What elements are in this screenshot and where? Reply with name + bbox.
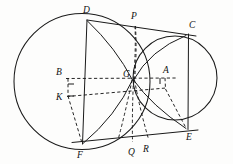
label-P: P xyxy=(130,11,137,21)
segment-AE xyxy=(166,89,187,128)
label-R: R xyxy=(142,144,149,154)
label-D: D xyxy=(82,5,90,15)
chord-DF xyxy=(83,20,88,144)
label-K: K xyxy=(55,92,63,102)
large-circle xyxy=(14,14,150,150)
label-Q: Q xyxy=(128,147,135,157)
segment-GQ xyxy=(132,80,133,142)
segment-GC xyxy=(134,36,187,81)
tangent-line-DC xyxy=(87,20,196,36)
figure-canvas: D P C B G A K E F Q R xyxy=(0,0,233,164)
chord-CE xyxy=(188,34,189,130)
segment-G-lower-left xyxy=(118,80,132,140)
label-F: F xyxy=(76,150,83,160)
label-G: G xyxy=(123,69,130,79)
geometric-figure-container: D P C B G A K E F Q R xyxy=(0,0,233,164)
label-B: B xyxy=(56,67,62,77)
segment-KA xyxy=(67,88,166,97)
segment-A-drop xyxy=(165,78,166,89)
label-A: A xyxy=(162,65,169,75)
segment-GE xyxy=(134,80,187,129)
segment-GR-dashed xyxy=(135,80,149,139)
segment-BA xyxy=(66,78,178,79)
segment-KF xyxy=(68,96,82,143)
label-C: C xyxy=(189,20,196,30)
label-E: E xyxy=(185,132,192,142)
